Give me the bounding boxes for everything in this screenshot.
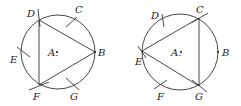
left-arc-mark-e [17, 47, 30, 57]
left-arc-mark-c [66, 17, 77, 27]
right-label-d: D [150, 10, 159, 21]
left-point-b-dot [94, 51, 96, 53]
right-label-a: A. [170, 47, 181, 58]
right-arc-mark-d [162, 14, 164, 27]
right-label-f: F [156, 91, 165, 102]
left-label-f: F [32, 91, 41, 102]
left-label-e: E [9, 54, 18, 65]
left-label-g: G [70, 91, 78, 102]
left-label-d: D [26, 8, 35, 19]
left-label-c: C [75, 4, 83, 15]
right-label-c: C [196, 4, 204, 15]
right-label-e: E [134, 56, 143, 67]
left-label-a: A. [47, 47, 58, 58]
right-label-g: G [195, 91, 203, 102]
right-point-b-dot [217, 51, 219, 53]
right-label-b: B [221, 47, 229, 58]
diagram-canvas: D C B E A. F G D C B E A. F G [0, 0, 241, 106]
left-label-b: B [97, 47, 105, 58]
